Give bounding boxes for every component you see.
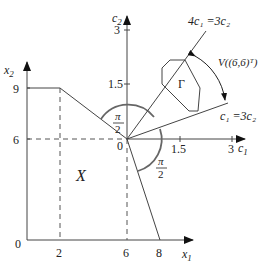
c-origin-label: 0 — [117, 139, 123, 153]
c2-tick-3: 3 — [114, 23, 120, 37]
lower-angle-label: π 2 — [156, 155, 167, 180]
region-x-label: X — [75, 167, 87, 184]
gamma-label: Γ — [178, 77, 185, 91]
upper-cone-ray — [127, 31, 206, 139]
svg-text:π: π — [115, 110, 121, 122]
c1-tick-3: 3 — [228, 142, 234, 156]
c1-axis-label: c1 — [238, 141, 248, 157]
x2-tick-6: 6 — [13, 133, 19, 147]
x2-tick-9: 9 — [13, 82, 19, 96]
dashed-guides — [27, 88, 127, 240]
upper-ray-label: 4c₁ =3c₂ — [188, 14, 230, 28]
svg-text:2: 2 — [115, 123, 121, 135]
x1-tick-8: 8 — [156, 246, 162, 260]
lower-ray-label: c₁ =3c₂ — [220, 109, 256, 123]
x2-axis-label: x2 — [3, 63, 14, 79]
c2-tick-1.5: 1.5 — [108, 77, 123, 91]
c1-tick-1.5: 1.5 — [171, 142, 186, 156]
x1-axis-label: x1 — [181, 247, 192, 263]
x1-tick-2: 2 — [56, 246, 62, 260]
cone-label: V((6,6)ᵀ) — [218, 56, 258, 69]
diagram-canvas: x2 x1 0 9 6 2 6 8 X c2 c1 3 1.5 1.5 3 0 … — [0, 0, 271, 269]
region-x-boundary — [27, 88, 160, 240]
x1-tick-6: 6 — [123, 246, 129, 260]
svg-text:2: 2 — [158, 168, 164, 180]
upper-angle-label: π 2 — [113, 110, 124, 135]
x-origin-label: 0 — [15, 237, 21, 251]
svg-text:π: π — [158, 155, 164, 167]
